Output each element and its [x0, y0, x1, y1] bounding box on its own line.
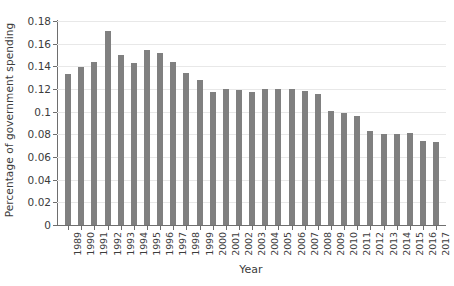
y-tick-label: 0.18 — [0, 15, 51, 27]
gridline — [57, 44, 446, 45]
gridline — [57, 21, 446, 22]
y-tick-label: 0.08 — [0, 128, 51, 140]
y-tick-label: 0.02 — [0, 196, 51, 208]
x-tick-mark — [292, 226, 293, 230]
x-tick-label: 1993 — [125, 232, 136, 256]
x-tick-mark — [436, 226, 437, 230]
bar — [367, 131, 373, 225]
x-tick-label: 1990 — [85, 232, 96, 256]
x-tick-mark — [134, 226, 135, 230]
x-tick-mark — [186, 226, 187, 230]
bar — [118, 55, 124, 225]
bar — [262, 89, 268, 225]
x-tick-mark — [239, 226, 240, 230]
x-tick-label: 1992 — [112, 232, 123, 256]
x-tick-label: 2005 — [282, 232, 293, 256]
x-tick-mark — [160, 226, 161, 230]
x-tick-label: 2015 — [414, 232, 425, 256]
bar — [223, 89, 229, 225]
y-tick-mark — [53, 66, 57, 67]
bar — [249, 92, 255, 225]
x-tick-mark — [147, 226, 148, 230]
bar — [420, 141, 426, 225]
y-tick-label: 0.04 — [0, 174, 51, 186]
x-tick-label: 2017 — [440, 232, 451, 256]
bar — [394, 134, 400, 225]
bar — [302, 91, 308, 225]
bar — [315, 94, 321, 225]
bar — [170, 62, 176, 225]
x-tick-mark — [265, 226, 266, 230]
x-axis-title: Year — [56, 263, 446, 276]
bar — [91, 62, 97, 225]
bar — [78, 67, 84, 225]
y-tick-mark — [53, 202, 57, 203]
x-tick-mark — [108, 226, 109, 230]
x-tick-label: 2010 — [348, 232, 359, 256]
x-tick-label: 1997 — [177, 232, 188, 256]
x-tick-label: 2009 — [335, 232, 346, 256]
x-tick-mark — [121, 226, 122, 230]
x-tick-mark — [305, 226, 306, 230]
x-tick-mark — [318, 226, 319, 230]
y-tick-label: 0.12 — [0, 83, 51, 95]
x-tick-mark — [357, 226, 358, 230]
x-tick-mark — [94, 226, 95, 230]
y-tick-mark — [53, 225, 57, 226]
x-tick-mark — [68, 226, 69, 230]
x-tick-mark — [384, 226, 385, 230]
x-tick-label: 1998 — [190, 232, 201, 256]
bar — [407, 133, 413, 225]
bar — [183, 73, 189, 225]
x-tick-label: 2000 — [217, 232, 228, 256]
x-tick-mark — [81, 226, 82, 230]
y-tick-mark — [53, 157, 57, 158]
x-tick-mark — [423, 226, 424, 230]
bar — [381, 134, 387, 225]
y-tick-mark — [53, 89, 57, 90]
y-tick-label: 0.06 — [0, 151, 51, 163]
y-tick-mark — [53, 134, 57, 135]
plot-area — [57, 21, 446, 225]
x-tick-label: 2012 — [374, 232, 385, 256]
x-tick-mark — [331, 226, 332, 230]
y-tick-label: 0.1 — [0, 106, 51, 118]
bar — [328, 111, 334, 225]
x-tick-mark — [410, 226, 411, 230]
x-tick-mark — [370, 226, 371, 230]
y-tick-label: 0 — [0, 219, 51, 231]
x-tick-label: 2011 — [361, 232, 372, 256]
x-tick-label: 2003 — [256, 232, 267, 256]
bar — [197, 80, 203, 225]
x-tick-mark — [213, 226, 214, 230]
x-tick-mark — [200, 226, 201, 230]
x-tick-label: 2014 — [401, 232, 412, 256]
y-tick-label: 0.14 — [0, 60, 51, 72]
y-tick-label: 0.16 — [0, 38, 51, 50]
x-tick-label: 2013 — [388, 232, 399, 256]
x-tick-label: 1996 — [164, 232, 175, 256]
x-tick-label: 2001 — [230, 232, 241, 256]
bar — [236, 90, 242, 225]
x-tick-label: 2002 — [243, 232, 254, 256]
x-tick-mark — [344, 226, 345, 230]
bar-chart-figure: Percentage of government spending Year 0… — [0, 0, 454, 286]
bar — [131, 63, 137, 225]
x-tick-label: 1994 — [138, 232, 149, 256]
x-tick-label: 1999 — [204, 232, 215, 256]
y-tick-mark — [53, 21, 57, 22]
x-tick-label: 2007 — [309, 232, 320, 256]
x-tick-label: 1995 — [151, 232, 162, 256]
x-tick-label: 2004 — [269, 232, 280, 256]
bar — [65, 74, 71, 225]
x-tick-mark — [173, 226, 174, 230]
x-tick-label: 1991 — [98, 232, 109, 256]
bar — [341, 113, 347, 225]
gridline — [57, 89, 446, 90]
bar — [144, 50, 150, 225]
bar — [433, 142, 439, 225]
y-tick-mark — [53, 112, 57, 113]
x-tick-label: 2008 — [322, 232, 333, 256]
bar — [105, 31, 111, 225]
bar — [275, 89, 281, 225]
